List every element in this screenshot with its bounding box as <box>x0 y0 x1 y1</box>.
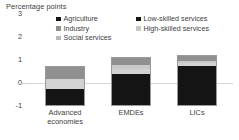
legend-swatch-high-skilled-services <box>136 26 141 31</box>
legend-item-high-skilled-services[interactable]: High-skilled services <box>136 24 209 34</box>
y-tick-3: 3 <box>0 10 22 18</box>
y-tick-minus-1: -1 <box>0 102 22 110</box>
x-axis-labels: Advanced economies EMDEs LICs <box>25 108 233 138</box>
x-label-line1: Advanced <box>32 108 98 117</box>
stacked-bar-emdes[interactable] <box>111 57 151 106</box>
legend-swatch-industry <box>56 26 61 31</box>
segment-industry <box>46 67 84 79</box>
segment-low-skilled-services <box>46 89 84 105</box>
x-label-line1: EMDEs <box>98 108 164 117</box>
segment-industry <box>112 58 150 65</box>
segment-social-services <box>46 79 84 89</box>
bar-group-emdes <box>111 37 151 106</box>
legend-label-low-skilled-services: Low-skilled services <box>144 14 208 24</box>
y-tick-0: 0 <box>0 79 22 87</box>
legend-label-high-skilled-services: High-skilled services <box>144 24 210 34</box>
x-label-line1: LICs <box>164 108 230 117</box>
stacked-bar-advanced-economies[interactable] <box>45 66 85 106</box>
bar-group-advanced-economies <box>45 37 85 106</box>
legend-item-industry[interactable]: Industry <box>56 24 111 34</box>
legend-item-low-skilled-services[interactable]: Low-skilled services <box>136 14 209 24</box>
y-tick-2: 2 <box>0 33 22 41</box>
chart-container: Percentage points 3 2 1 0 -1 <box>0 0 239 140</box>
legend-label-agriculture: Agriculture <box>64 14 98 24</box>
legend-label-industry: Industry <box>64 24 90 34</box>
x-label-line2: economies <box>32 117 98 126</box>
stacked-bar-lics[interactable] <box>177 55 217 106</box>
legend-label-social-services: Social services <box>64 33 112 43</box>
y-tick-1: 1 <box>0 56 22 64</box>
segment-low-skilled-services <box>178 66 216 105</box>
legend-swatch-social-services <box>56 36 61 41</box>
bar-group-lics <box>177 37 217 106</box>
legend-swatch-agriculture <box>56 17 61 22</box>
x-label-lics: LICs <box>164 108 230 117</box>
x-label-advanced-economies: Advanced economies <box>32 108 98 126</box>
legend-swatch-low-skilled-services <box>136 17 141 22</box>
legend-item-agriculture[interactable]: Agriculture <box>56 14 111 24</box>
y-axis-labels: 3 2 1 0 -1 <box>0 14 22 106</box>
segment-low-skilled-services <box>112 74 150 105</box>
legend-column-left: Agriculture Industry Social services <box>56 14 111 43</box>
legend-item-social-services[interactable]: Social services <box>56 33 111 43</box>
legend-column-right: Low-skilled services High-skilled servic… <box>136 14 209 33</box>
x-label-emdes: EMDEs <box>98 108 164 117</box>
zero-tick-mark <box>21 83 25 84</box>
